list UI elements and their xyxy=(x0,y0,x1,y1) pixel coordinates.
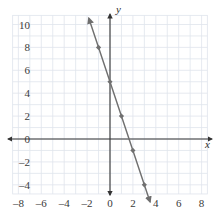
y-tick-label: 2 xyxy=(25,110,31,122)
x-tick-label: 0 xyxy=(107,197,113,209)
y-tick-label: –4 xyxy=(18,179,31,191)
data-point-marker xyxy=(119,114,124,119)
x-tick-label: –8 xyxy=(12,197,25,209)
x-tick-label: 6 xyxy=(176,197,182,209)
y-tick-label: –2 xyxy=(18,156,30,168)
x-tick-label: 8 xyxy=(199,197,205,209)
plotted-line-series xyxy=(89,18,150,202)
x-axis-tick-labels: –8–6–4–202468 xyxy=(12,197,205,209)
x-tick-label: 4 xyxy=(153,197,159,209)
y-tick-label: 4 xyxy=(25,87,31,99)
x-tick-label: –4 xyxy=(58,197,71,209)
y-axis-label: y xyxy=(115,3,121,15)
y-tick-label: 10 xyxy=(19,19,31,31)
data-point-marker xyxy=(142,182,147,187)
x-tick-label: –6 xyxy=(35,197,48,209)
graph-canvas: –8–6–4–202468 1086420–2–4 yx xyxy=(0,0,213,214)
data-point-marker xyxy=(107,79,112,84)
data-point-marker xyxy=(96,45,101,50)
coordinate-plane-graph: –8–6–4–202468 1086420–2–4 yx xyxy=(0,0,213,214)
x-tick-label: –2 xyxy=(81,197,93,209)
x-tick-label: 2 xyxy=(130,197,136,209)
x-axis-label: x xyxy=(204,138,210,150)
data-point-marker xyxy=(130,148,135,153)
y-tick-label: 0 xyxy=(25,133,31,145)
y-tick-label: 6 xyxy=(25,64,31,76)
y-tick-label: 8 xyxy=(25,41,31,53)
